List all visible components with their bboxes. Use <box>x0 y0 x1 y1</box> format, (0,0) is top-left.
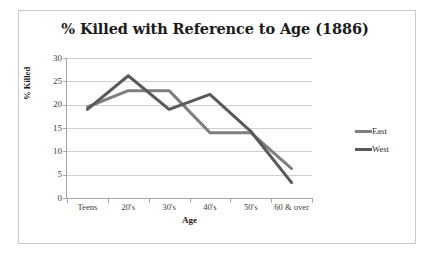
y-axis-tick-label: 5 <box>40 170 62 179</box>
legend-swatch-east <box>355 130 372 133</box>
chart-title: % Killed with Reference to Age (1886) <box>30 20 400 37</box>
y-axis-tick-label: 10 <box>40 147 62 156</box>
y-axis-title: % Killed <box>22 67 32 100</box>
x-axis-tick-label: 60 & over <box>274 202 309 212</box>
y-axis-tick-label: 30 <box>40 54 62 63</box>
x-axis-tick-label: 20's <box>122 202 136 212</box>
y-axis-tick-label: 15 <box>40 124 62 133</box>
y-axis-tick-label: 25 <box>40 77 62 86</box>
x-axis-tick-label: 50's <box>244 202 258 212</box>
legend-swatch-west <box>355 148 372 151</box>
y-axis-tick-label: 0 <box>40 194 62 203</box>
x-axis-title: Age <box>67 215 312 225</box>
x-axis-line <box>66 198 313 199</box>
x-axis-tick-label: 40's <box>203 202 217 212</box>
chart-figure: % Killed with Reference to Age (1886) % … <box>0 0 435 258</box>
legend-label: East <box>372 126 387 136</box>
chart-legend: EastWest <box>355 122 413 158</box>
legend-entry-east[interactable]: East <box>355 122 413 140</box>
series-lines <box>67 58 312 198</box>
legend-entry-west[interactable]: West <box>355 140 413 158</box>
x-axis-tick <box>312 199 313 203</box>
series-line-west <box>87 76 291 183</box>
x-axis-tick-label: Teens <box>77 202 97 212</box>
x-axis-tick-labels: Teens20's30's40's50's60 & over <box>67 202 312 216</box>
legend-label: West <box>372 144 389 154</box>
y-axis-tick-label: 20 <box>40 100 62 109</box>
x-axis-tick-label: 30's <box>162 202 176 212</box>
y-axis-tick-labels: 051015202530 <box>38 58 62 198</box>
plot-area <box>67 58 312 198</box>
